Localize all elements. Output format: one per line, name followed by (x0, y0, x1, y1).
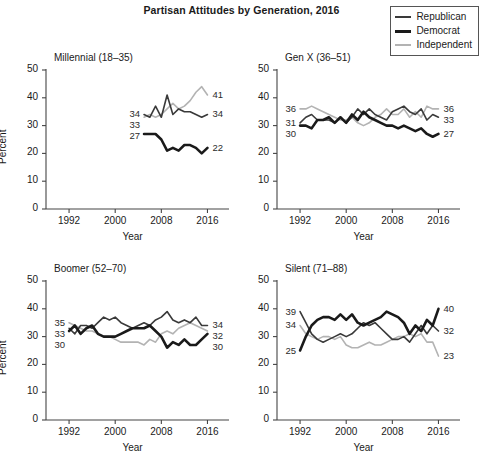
y-tick-label: 0 (237, 413, 269, 424)
y-tick-label: 0 (6, 413, 38, 424)
x-tick-label: 2016 (187, 215, 227, 226)
x-tick-label: 2008 (372, 426, 412, 437)
y-tick-label: 50 (6, 63, 38, 74)
start-value-label-republican: 33 (47, 328, 65, 339)
line-series-republican (300, 312, 438, 343)
end-value-label-republican: 34 (212, 108, 232, 119)
y-tick-label: 40 (6, 91, 38, 102)
line-series-republican (300, 106, 438, 123)
end-value-label-independent: 36 (443, 103, 463, 114)
x-axis-label: Year (334, 231, 394, 242)
end-value-label-republican: 33 (443, 114, 463, 125)
legend-swatch-republican (395, 16, 411, 18)
line-series-democrat (144, 134, 207, 153)
legend-label-republican: Republican (416, 12, 466, 22)
x-tick-label: 2016 (187, 426, 227, 437)
start-value-label-independent: 35 (47, 317, 65, 328)
line-series-republican (69, 312, 207, 334)
x-tick-label: 2000 (326, 426, 366, 437)
y-tick-label: 40 (237, 91, 269, 102)
x-tick-label: 1992 (49, 426, 89, 437)
line-series-republican (144, 95, 207, 117)
x-tick-label: 2000 (95, 426, 135, 437)
legend-item-democrat: Democrat (395, 24, 472, 38)
panel-title: Millennial (18–35) (54, 52, 133, 63)
end-value-label-democrat: 40 (443, 303, 463, 314)
figure-root: Partisan Attitudes by Generation, 2016 R… (0, 0, 483, 453)
end-value-label-republican: 32 (443, 325, 463, 336)
legend-item-independent: Independent (395, 38, 472, 52)
start-value-label-independent: 36 (278, 103, 296, 114)
x-tick-label: 2000 (95, 215, 135, 226)
line-series-democrat (300, 112, 438, 137)
end-value-label-independent: 32 (212, 330, 232, 341)
line-series-democrat (69, 325, 207, 347)
x-tick-label: 1992 (280, 426, 320, 437)
x-axis-label: Year (334, 442, 394, 453)
y-tick-label: 10 (237, 174, 269, 185)
y-axis-label: Percent (0, 129, 8, 163)
end-value-label-democrat: 22 (212, 142, 232, 153)
y-tick-label: 20 (6, 357, 38, 368)
y-tick-label: 30 (237, 330, 269, 341)
start-value-label-democrat: 27 (122, 130, 140, 141)
y-tick-label: 30 (6, 119, 38, 130)
y-tick-label: 50 (237, 63, 269, 74)
legend-item-republican: Republican (395, 10, 472, 24)
x-tick-label: 2008 (141, 426, 181, 437)
y-tick-label: 0 (237, 202, 269, 213)
line-series-independent (69, 323, 207, 345)
y-tick-label: 20 (237, 146, 269, 157)
x-tick-label: 1992 (280, 215, 320, 226)
y-tick-label: 30 (237, 119, 269, 130)
start-value-label-republican: 39 (278, 306, 296, 317)
y-tick-label: 10 (237, 385, 269, 396)
start-value-label-democrat: 25 (278, 345, 296, 356)
y-tick-label: 10 (6, 174, 38, 185)
start-value-label-republican: 31 (278, 117, 296, 128)
x-tick-label: 2016 (418, 215, 458, 226)
y-tick-label: 20 (237, 357, 269, 368)
legend: Republican Democrat Independent (390, 6, 479, 56)
x-tick-label: 1992 (49, 215, 89, 226)
end-value-label-independent: 23 (443, 350, 463, 361)
y-axis-label: Percent (0, 340, 8, 374)
x-tick-label: 2008 (141, 215, 181, 226)
line-series-democrat (300, 309, 438, 351)
y-tick-label: 0 (6, 202, 38, 213)
legend-swatch-democrat (395, 30, 411, 33)
line-series-independent (144, 87, 207, 118)
panel-title: Gen X (36–51) (285, 52, 351, 63)
end-value-label-republican: 34 (212, 319, 232, 330)
start-value-label-republican: 34 (122, 108, 140, 119)
x-axis-label: Year (103, 231, 163, 242)
end-value-label-democrat: 30 (212, 341, 232, 352)
y-tick-label: 10 (6, 385, 38, 396)
y-tick-label: 30 (6, 330, 38, 341)
legend-label-independent: Independent (416, 40, 472, 50)
y-tick-label: 50 (6, 274, 38, 285)
y-tick-label: 40 (237, 302, 269, 313)
start-value-label-democrat: 30 (278, 128, 296, 139)
y-tick-label: 40 (6, 302, 38, 313)
end-value-label-independent: 41 (212, 89, 232, 100)
legend-label-democrat: Democrat (416, 26, 459, 36)
start-value-label-independent: 33 (122, 119, 140, 130)
y-tick-label: 20 (6, 146, 38, 157)
line-series-independent (300, 106, 438, 125)
start-value-label-democrat: 30 (47, 339, 65, 350)
line-series-independent (300, 325, 438, 356)
x-tick-label: 2000 (326, 215, 366, 226)
panel-title: Silent (71–88) (285, 263, 347, 274)
start-value-label-independent: 34 (278, 319, 296, 330)
legend-swatch-independent (395, 44, 411, 46)
x-tick-label: 2008 (372, 215, 412, 226)
end-value-label-democrat: 27 (443, 128, 463, 139)
panel-title: Boomer (52–70) (54, 263, 126, 274)
x-axis-label: Year (103, 442, 163, 453)
y-tick-label: 50 (237, 274, 269, 285)
x-tick-label: 2016 (418, 426, 458, 437)
